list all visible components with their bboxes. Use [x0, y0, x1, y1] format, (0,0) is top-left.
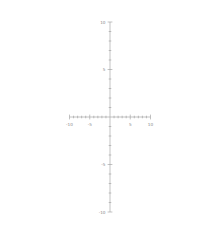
y-tick-label: -10 — [99, 210, 106, 215]
cubic-function-plot: -10-5510 105-5-10 — [0, 0, 216, 225]
x-tick-label: 10 — [148, 122, 154, 127]
x-tick-label: 5 — [129, 122, 132, 127]
y-tick-label: 10 — [100, 20, 106, 25]
x-tick-label: -10 — [66, 122, 73, 127]
y-tick-label: -5 — [101, 162, 106, 167]
plot-background — [0, 0, 216, 225]
plot-canvas: -10-5510 105-5-10 — [0, 0, 216, 225]
y-tick-label: 5 — [103, 67, 106, 72]
x-tick-label: -5 — [88, 122, 93, 127]
